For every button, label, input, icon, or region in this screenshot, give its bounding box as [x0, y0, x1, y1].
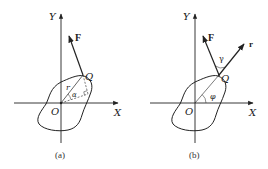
phi-label: φ: [210, 92, 216, 101]
origin-point-a: [60, 102, 62, 104]
caption-b: (b): [189, 150, 200, 160]
panel-a: Y F Q r α O X (a): [14, 11, 122, 160]
force-label-a: F: [75, 32, 81, 43]
alpha-label: α: [72, 91, 77, 99]
gamma-label: γ: [219, 54, 224, 63]
point-q-label-b: Q: [221, 73, 229, 84]
phi-arc: [202, 95, 206, 103]
panel-b: Y F γ r Q φ O X (b): [150, 11, 257, 160]
force-label-b: F: [208, 32, 214, 43]
x-axis-label-a: X: [113, 107, 122, 118]
r-vector-label-b: r: [249, 39, 253, 49]
gamma-arc: [215, 66, 225, 68]
point-q-b: [218, 74, 220, 76]
y-axis-label-a: Y: [49, 11, 57, 22]
diagram-canvas: Y F Q r α O X (a) Y F γ r Q φ O X: [0, 0, 268, 169]
y-axis-label-b: Y: [183, 11, 191, 22]
radius-label-a: r: [66, 83, 71, 92]
origin-label-b: O: [185, 106, 193, 117]
x-axis-label-b: X: [248, 107, 257, 118]
caption-a: (a): [55, 150, 65, 160]
origin-label-a: O: [51, 106, 59, 117]
alpha-arc: [68, 94, 71, 100]
point-q-label-a: Q: [85, 71, 93, 82]
